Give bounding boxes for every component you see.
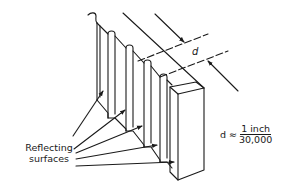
- grating-hook: [88, 13, 97, 23]
- dimension-arrow-bottom: [208, 61, 238, 91]
- pointer-arrow-1: [73, 91, 103, 136]
- label-line-2: surfaces: [18, 153, 80, 164]
- end-block: [170, 82, 204, 180]
- reflecting-surfaces-label: Reflecting surfaces: [18, 142, 80, 164]
- formula-lhs: d ≈: [220, 129, 237, 140]
- label-line-1: Reflecting: [18, 142, 80, 153]
- dimension-arrow-top: [155, 14, 184, 42]
- formula-fraction: 1 inch 30,000: [239, 124, 272, 145]
- grating-diagram: [0, 0, 287, 195]
- pointer-arrow-5: [76, 162, 174, 166]
- pointer-arrow-4: [76, 145, 157, 159]
- spacing-formula: d ≈ 1 inch 30,000: [220, 124, 272, 145]
- dimension-d-label: d: [192, 46, 198, 57]
- formula-denominator: 30,000: [239, 135, 272, 145]
